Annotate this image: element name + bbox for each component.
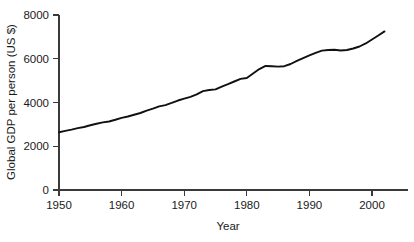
gdp-per-person-line <box>59 31 385 132</box>
y-axis-title: Global GDP per person (US $) <box>5 24 17 180</box>
x-tick-label-1970: 1970 <box>171 199 197 211</box>
x-tick-label-2000: 2000 <box>359 199 385 211</box>
y-tick-group <box>53 15 59 190</box>
y-tick-label-6000: 6000 <box>23 53 49 65</box>
y-tick-label-8000: 8000 <box>23 9 49 21</box>
y-tick-label-2000: 2000 <box>23 140 49 152</box>
x-tick-label-1980: 1980 <box>234 199 260 211</box>
line-chart: 0 2000 4000 6000 8000 1950 1960 1970 198… <box>0 0 414 242</box>
y-tick-label-0: 0 <box>43 184 49 196</box>
x-tick-label-1960: 1960 <box>109 199 135 211</box>
x-tick-group <box>59 190 372 196</box>
y-tick-label-4000: 4000 <box>23 97 49 109</box>
chart-figure: 0 2000 4000 6000 8000 1950 1960 1970 198… <box>0 0 414 242</box>
x-tick-label-1950: 1950 <box>46 199 72 211</box>
x-tick-label-1990: 1990 <box>297 199 323 211</box>
x-axis-title: Year <box>216 220 239 232</box>
